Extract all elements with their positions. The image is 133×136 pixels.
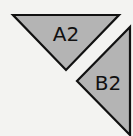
diagram-canvas: A2 B2 xyxy=(0,0,133,136)
label-a2: A2 xyxy=(53,22,79,46)
label-b2: B2 xyxy=(95,71,121,95)
